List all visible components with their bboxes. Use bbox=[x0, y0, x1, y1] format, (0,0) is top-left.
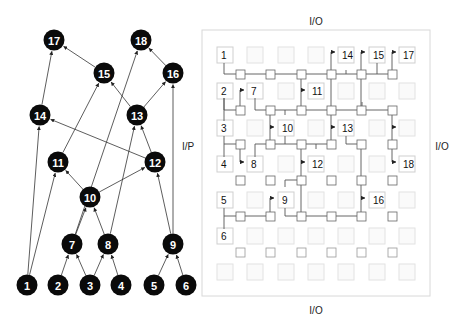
graph-edge-14-17 bbox=[42, 51, 52, 104]
fabric-cell-r2-c2: 10 bbox=[278, 120, 294, 136]
fabric-cell-r3-c4 bbox=[338, 156, 354, 172]
fabric-cell-r0-c3 bbox=[308, 47, 324, 63]
switch-box-r3-c5 bbox=[388, 176, 397, 185]
svg-text:16: 16 bbox=[373, 195, 385, 206]
graph-edge-12-13 bbox=[141, 126, 151, 152]
fabric-cell-r6-c0 bbox=[217, 264, 233, 280]
fabric-cell-r0-c0: 1 bbox=[217, 47, 233, 63]
fabric-cell-r0-c5: 15 bbox=[369, 47, 385, 63]
svg-text:12: 12 bbox=[312, 159, 324, 170]
fabric-cell-r1-c1: 7 bbox=[247, 83, 263, 99]
switch-box-r4-c5 bbox=[388, 212, 397, 221]
graph-edge-16-18 bbox=[149, 48, 166, 65]
fabric-cell-r6-c2 bbox=[278, 264, 294, 280]
svg-text:9: 9 bbox=[282, 195, 288, 206]
fabric-cell-r2-c0: 3 bbox=[217, 120, 233, 136]
graph-edge-11-15 bbox=[63, 83, 99, 152]
switch-box-r0-c4 bbox=[357, 70, 366, 79]
graph-node-2: 2 bbox=[48, 275, 69, 296]
svg-text:13: 13 bbox=[342, 123, 354, 134]
svg-text:8: 8 bbox=[251, 159, 257, 170]
svg-text:2: 2 bbox=[221, 86, 227, 97]
svg-text:5: 5 bbox=[221, 195, 227, 206]
switch-box-r4-c1 bbox=[266, 212, 275, 221]
fabric-cell-r6-c5 bbox=[369, 264, 385, 280]
fabric-cell-r1-c5 bbox=[369, 83, 385, 99]
graph-node-7: 7 bbox=[62, 234, 83, 255]
fabric-cell-r6-c6 bbox=[399, 264, 415, 280]
switch-box-r1-c0 bbox=[236, 106, 245, 115]
fabric-cell-r4-c5: 16 bbox=[369, 192, 385, 208]
fabric-cell-r5-c6 bbox=[399, 228, 415, 244]
graph-edge-13-16 bbox=[144, 82, 166, 107]
fabric-cell-r4-c6 bbox=[399, 192, 415, 208]
switch-box-r5-c1 bbox=[266, 248, 275, 257]
switch-box-r1-c2 bbox=[297, 106, 306, 115]
graph-edge-10-12 bbox=[99, 167, 145, 192]
fabric-cell-r2-c3 bbox=[308, 120, 324, 136]
fabric-cell-r2-c5 bbox=[369, 120, 385, 136]
graph-edge-5-9 bbox=[158, 254, 168, 275]
graph-node-12: 12 bbox=[145, 152, 166, 173]
switch-box-r5-c5 bbox=[388, 248, 397, 257]
svg-text:18: 18 bbox=[403, 159, 415, 170]
diagram-canvas: 123456789101112131415161718 114151727113… bbox=[0, 0, 457, 321]
svg-text:3: 3 bbox=[87, 280, 93, 292]
svg-text:15: 15 bbox=[98, 68, 110, 80]
graph-nodes: 123456789101112131415161718 bbox=[17, 30, 197, 296]
graph-node-4: 4 bbox=[111, 275, 132, 296]
svg-text:13: 13 bbox=[131, 110, 143, 122]
switch-box-r3-c2 bbox=[297, 176, 306, 185]
fabric-cell-r1-c2 bbox=[278, 83, 294, 99]
svg-text:7: 7 bbox=[69, 239, 75, 251]
graph-node-5: 5 bbox=[144, 275, 165, 296]
fabric-cell-r4-c4 bbox=[338, 192, 354, 208]
fabric-cell-r3-c3: 12 bbox=[308, 156, 324, 172]
fabric-cell-r2-c1 bbox=[247, 120, 263, 136]
switch-box-r0-c2 bbox=[297, 70, 306, 79]
graph-edge-2-7 bbox=[61, 255, 68, 275]
fabric-label-right: I/O bbox=[435, 141, 449, 152]
graph-node-3: 3 bbox=[80, 275, 101, 296]
svg-text:5: 5 bbox=[151, 280, 157, 292]
fabric-label-top: I/O bbox=[309, 16, 323, 27]
switch-box-r4-c3 bbox=[327, 212, 336, 221]
switch-box-r1-c3 bbox=[327, 106, 336, 115]
fabric-label-left: I/P bbox=[182, 141, 195, 152]
switch-box-r2-c0 bbox=[236, 140, 245, 149]
graph-edge-4-8 bbox=[111, 255, 117, 275]
switch-box-r0-c3 bbox=[327, 70, 336, 79]
fabric-cell-r1-c3: 11 bbox=[308, 83, 324, 99]
svg-text:4: 4 bbox=[118, 280, 125, 292]
graph-node-17: 17 bbox=[44, 30, 65, 51]
fabric-cell-r1-c4 bbox=[338, 83, 354, 99]
switch-box-r5-c2 bbox=[297, 248, 306, 257]
switch-box-r1-c5 bbox=[388, 106, 397, 115]
svg-text:11: 11 bbox=[52, 157, 64, 169]
svg-text:16: 16 bbox=[167, 68, 179, 80]
fabric-cell-r3-c2 bbox=[278, 156, 294, 172]
svg-text:10: 10 bbox=[84, 192, 96, 204]
graph-edge-10-11 bbox=[66, 170, 83, 189]
svg-text:7: 7 bbox=[251, 86, 257, 97]
fabric-cell-r1-c6 bbox=[399, 83, 415, 99]
graph-edge-13-15 bbox=[111, 82, 130, 107]
svg-text:8: 8 bbox=[105, 239, 111, 251]
switch-box-r3-c0 bbox=[236, 176, 245, 185]
fabric-cell-r0-c2 bbox=[278, 47, 294, 63]
switch-box-r3-c3 bbox=[327, 176, 336, 185]
switch-box-r3-c4 bbox=[357, 176, 366, 185]
fabric-cell-r4-c1 bbox=[247, 192, 263, 208]
switch-box-r0-c0 bbox=[236, 70, 245, 79]
fabric-cell-r5-c5 bbox=[369, 228, 385, 244]
graph-edge-8-10 bbox=[94, 208, 104, 234]
fabric-cell-r0-c4: 14 bbox=[338, 47, 354, 63]
fabric-cell-r3-c6: 18 bbox=[399, 156, 415, 172]
graph-edge-12-14 bbox=[51, 119, 146, 158]
graph-node-10: 10 bbox=[80, 187, 101, 208]
routing-fabric: 114151727113101348121859166 bbox=[202, 30, 430, 296]
svg-text:9: 9 bbox=[170, 239, 176, 251]
switch-box-r2-c2 bbox=[297, 140, 306, 149]
svg-text:15: 15 bbox=[373, 50, 385, 61]
switch-box-r4-c0 bbox=[236, 212, 245, 221]
